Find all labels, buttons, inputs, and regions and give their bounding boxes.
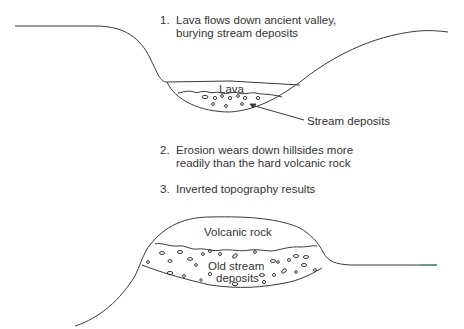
step-3-number: 3.	[160, 183, 170, 196]
step-1-number: 1.	[160, 14, 170, 27]
step-1-line-2: burying stream deposits	[176, 27, 298, 40]
deposits-label: deposits	[216, 272, 259, 284]
stream-deposits-label: Stream deposits	[307, 115, 390, 127]
volcanic-rock-label: Volcanic rock	[204, 226, 272, 238]
stream-deposits-pointer	[255, 106, 304, 120]
lava-label: Lava	[219, 83, 244, 95]
step-2-number: 2.	[160, 144, 170, 157]
step-2-line-2: readily than the hard volcanic rock	[176, 157, 351, 170]
volcanic-deposit-boundary	[155, 244, 317, 251]
step-3-line-1: Inverted topography results	[176, 183, 315, 196]
step-1-line-1: Lava flows down ancient valley,	[176, 14, 336, 27]
old-stream-label: Old stream	[208, 260, 264, 272]
step-2-line-1: Erosion wears down hillsides more	[176, 144, 353, 157]
